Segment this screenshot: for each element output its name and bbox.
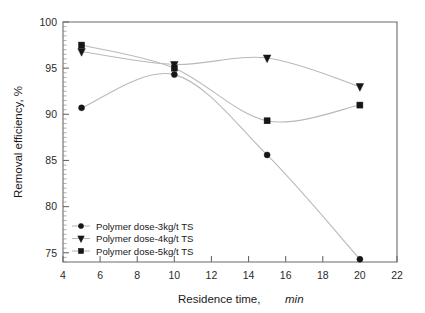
y-tick-label: 80 [45,200,57,212]
x-tick-label: 20 [354,269,366,281]
legend-label-2: Polymer dose-4kg/t TS [96,233,193,244]
x-tick-label: 18 [317,269,329,281]
y-tick-label: 95 [45,62,57,74]
x-axis-ticks [63,256,397,262]
x-tick-label: 12 [206,269,218,281]
line-chart: 7580859095100 46810121416182022 Residenc… [0,0,425,313]
x-axis-title: Residence time, [178,293,260,305]
chart-legend: Polymer dose-3kg/t TSPolymer dose-4kg/t … [72,221,193,257]
y-axis-tick-labels: 7580859095100 [39,16,57,259]
y-axis-title: Removal efficiency, % [12,86,24,198]
x-axis-tick-labels: 46810121416182022 [60,269,403,281]
x-tick-label: 14 [243,269,255,281]
x-axis-title-unit: min [285,293,304,305]
marker-circle [78,223,83,228]
marker-circle [357,256,363,262]
x-tick-label: 8 [134,269,140,281]
y-axis-ticks [63,22,69,262]
marker-circle [171,72,177,78]
marker-circle [264,152,270,158]
legend-label-3: Polymer dose-5kg/t TS [96,246,193,257]
y-tick-label: 90 [45,108,57,120]
y-tick-label: 100 [39,16,57,28]
legend-label-1: Polymer dose-3kg/t TS [96,221,193,232]
marker-triangle-down [78,236,85,243]
y-tick-label: 75 [45,247,57,259]
marker-circle [79,105,85,111]
chart-figure: 7580859095100 46810121416182022 Residenc… [0,0,425,313]
series-curve-2 [82,52,360,87]
marker-square [357,102,363,108]
x-tick-label: 22 [391,269,403,281]
x-tick-label: 6 [97,269,103,281]
x-tick-label: 4 [60,269,66,281]
marker-square [78,248,83,253]
marker-triangle-down [356,84,364,92]
y-tick-label: 85 [45,154,57,166]
marker-square [264,118,270,124]
series-curve-3 [82,45,360,122]
x-tick-label: 10 [168,269,180,281]
marker-square [79,42,85,48]
marker-square [171,65,177,71]
x-tick-label: 16 [280,269,292,281]
